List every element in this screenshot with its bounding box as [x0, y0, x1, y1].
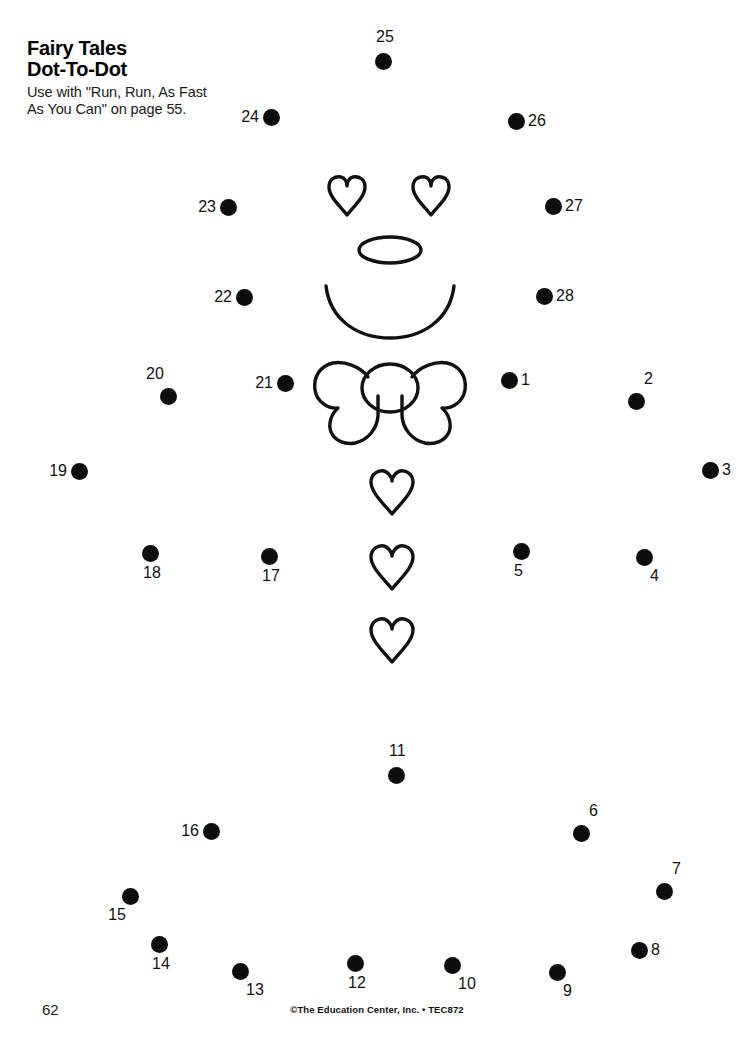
- dot-marker-16[interactable]: [203, 823, 220, 840]
- dot-number-9: 9: [563, 983, 572, 999]
- dot-number-2: 2: [644, 371, 653, 387]
- dot-marker-11[interactable]: [388, 767, 405, 784]
- dot-marker-20[interactable]: [160, 388, 177, 405]
- dot-number-22: 22: [214, 289, 232, 305]
- dot-marker-13[interactable]: [232, 963, 249, 980]
- dot-marker-18[interactable]: [142, 545, 159, 562]
- dot-marker-8[interactable]: [631, 942, 648, 959]
- dot-number-27: 27: [565, 198, 583, 214]
- dot-marker-6[interactable]: [573, 825, 590, 842]
- dot-number-4: 4: [650, 568, 659, 584]
- dot-marker-22[interactable]: [236, 289, 253, 306]
- dot-number-7: 7: [672, 861, 681, 877]
- dot-number-5: 5: [514, 563, 523, 579]
- dot-number-12: 12: [348, 975, 366, 991]
- dot-number-15: 15: [108, 907, 126, 923]
- dot-number-21: 21: [255, 375, 273, 391]
- dot-marker-12[interactable]: [347, 955, 364, 972]
- dot-number-25: 25: [376, 29, 394, 45]
- dot-number-23: 23: [198, 199, 216, 215]
- dot-marker-3[interactable]: [702, 462, 719, 479]
- dot-marker-1[interactable]: [501, 372, 518, 389]
- dot-marker-9[interactable]: [549, 964, 566, 981]
- worksheet-page: Fairy Tales Dot-To-Dot Use with "Run, Ru…: [0, 0, 754, 1045]
- dot-number-16: 16: [181, 823, 199, 839]
- dot-marker-27[interactable]: [545, 198, 562, 215]
- dot-number-19: 19: [49, 463, 67, 479]
- dot-number-1: 1: [521, 372, 530, 388]
- dot-marker-21[interactable]: [277, 375, 294, 392]
- dot-number-18: 18: [143, 565, 161, 581]
- dot-marker-19[interactable]: [71, 463, 88, 480]
- dot-number-6: 6: [589, 803, 598, 819]
- dots-layer: 1234567891011121314151617181920212223242…: [0, 0, 754, 1045]
- dot-marker-2[interactable]: [628, 393, 645, 410]
- dot-marker-7[interactable]: [656, 883, 673, 900]
- dot-marker-4[interactable]: [636, 549, 653, 566]
- dot-marker-24[interactable]: [263, 109, 280, 126]
- dot-number-3: 3: [722, 462, 731, 478]
- dot-marker-10[interactable]: [444, 957, 461, 974]
- dot-number-24: 24: [241, 109, 259, 125]
- dot-number-10: 10: [458, 976, 476, 992]
- dot-marker-14[interactable]: [151, 936, 168, 953]
- dot-number-20: 20: [146, 366, 164, 382]
- dot-number-11: 11: [389, 743, 406, 759]
- copyright-notice: ©The Education Center, Inc. • TEC872: [0, 1004, 754, 1015]
- dot-marker-5[interactable]: [513, 543, 530, 560]
- dot-number-26: 26: [528, 113, 546, 129]
- dot-marker-28[interactable]: [536, 288, 553, 305]
- dot-marker-23[interactable]: [220, 199, 237, 216]
- dot-number-13: 13: [246, 982, 264, 998]
- dot-marker-17[interactable]: [261, 548, 278, 565]
- dot-marker-26[interactable]: [508, 113, 525, 130]
- dot-marker-25[interactable]: [375, 53, 392, 70]
- dot-number-14: 14: [152, 956, 170, 972]
- dot-number-8: 8: [651, 942, 660, 958]
- dot-number-17: 17: [262, 568, 280, 584]
- dot-number-28: 28: [556, 288, 574, 304]
- dot-marker-15[interactable]: [122, 888, 139, 905]
